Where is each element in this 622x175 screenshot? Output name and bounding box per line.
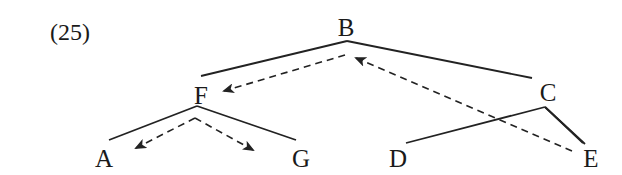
tree-diagram: (25) B F C A G D E <box>0 0 622 175</box>
node-A: A <box>95 145 113 172</box>
edge-C-D <box>406 107 545 143</box>
edge-B-C <box>347 41 532 78</box>
node-labels: B F C A G D E <box>95 14 599 172</box>
tree-edges <box>109 41 585 144</box>
node-F: F <box>194 82 208 109</box>
edge-F-G <box>197 106 296 140</box>
arrow-B-to-F <box>224 55 345 91</box>
arrow-F-to-A <box>136 118 195 148</box>
node-D: D <box>389 145 407 172</box>
example-number: (25) <box>50 19 90 45</box>
node-B: B <box>338 14 355 41</box>
node-G: G <box>292 145 310 172</box>
edge-B-F <box>201 41 347 76</box>
node-C: C <box>540 79 557 106</box>
node-E: E <box>583 145 598 172</box>
edge-C-E <box>545 107 583 143</box>
